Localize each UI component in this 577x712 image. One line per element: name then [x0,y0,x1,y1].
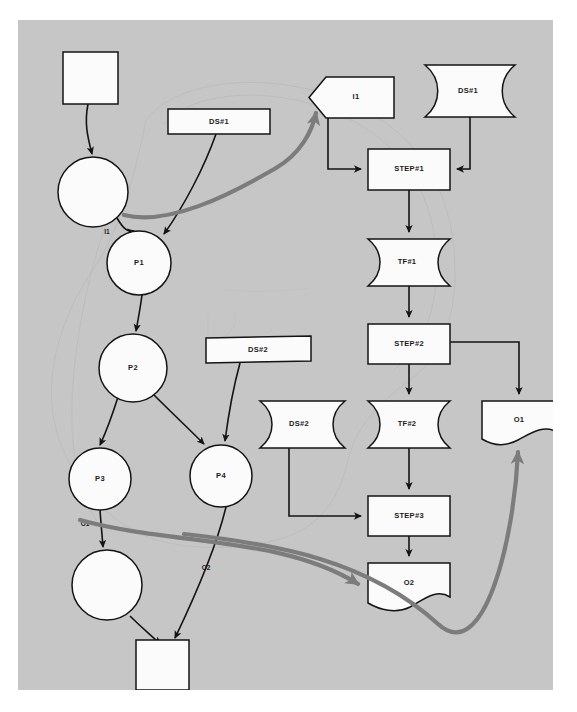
dfd-edge-label-o2: O2 [202,564,211,571]
flowchart-node-tf1[interactable]: TF#1 [368,239,450,286]
dfd-node-p4[interactable]: P4 [190,445,252,507]
dfd-node-ext-source[interactable] [63,52,118,104]
dfd-p1-label: P1 [134,258,144,267]
flowchart-tf1-label: TF#1 [398,257,417,266]
dfd-ds2-label: DS#2 [248,345,268,354]
flowchart-node-ds1[interactable]: DS#1 [425,65,515,117]
dfd-node-p2[interactable]: P2 [99,334,167,402]
dfd-node-proc-bottom[interactable] [72,550,142,620]
dfd-node-ds1-store[interactable]: DS#1 [168,109,270,134]
flowchart-step3-label: STEP#3 [394,511,424,520]
flowchart-ds1-label: DS#1 [458,86,478,95]
dfd-p4-label: P4 [216,471,226,480]
flowchart-o1-label: O1 [514,415,525,424]
flowchart-node-tf2[interactable]: TF#2 [368,401,450,448]
flowchart-o2-label: O2 [404,578,415,587]
dfd-node-p3[interactable]: P3 [69,448,131,510]
dfd-node-ds2-store[interactable]: DS#2 [206,336,311,363]
flowchart-step2-label: STEP#2 [394,339,424,348]
dfd-node-p1[interactable]: P1 [107,231,171,295]
diagram-canvas: DS#1 P1 P2 DS#2 P3 [18,20,553,690]
flowchart-step1-label: STEP#1 [394,164,424,173]
flowchart-node-ds2[interactable]: DS#2 [260,401,345,448]
diagram-panel: DS#1 P1 P2 DS#2 P3 [18,20,553,690]
flowchart-node-step1[interactable]: STEP#1 [368,149,450,190]
dfd-ds1-label: DS#1 [209,117,229,126]
flowchart-ds2-label: DS#2 [289,419,309,428]
flowchart-node-step3[interactable]: STEP#3 [368,496,450,536]
diagram-page: DS#1 P1 P2 DS#2 P3 [0,0,577,712]
dfd-edge-label-i1: I1 [104,228,110,235]
clipped-caption-text [8,0,568,3]
flowchart-node-i1[interactable]: I1 [309,77,394,118]
flowchart-i1-label: I1 [353,92,360,101]
flowchart-node-step2[interactable]: STEP#2 [368,324,450,364]
flowchart-tf2-label: TF#2 [398,419,417,428]
dfd-node-ext-sink[interactable] [136,640,189,690]
flowchart-node-o1[interactable]: O1 [482,401,553,444]
dfd-p2-label: P2 [128,363,138,372]
dfd-p3-label: P3 [95,474,105,483]
dfd-node-proc-top[interactable] [58,157,128,227]
